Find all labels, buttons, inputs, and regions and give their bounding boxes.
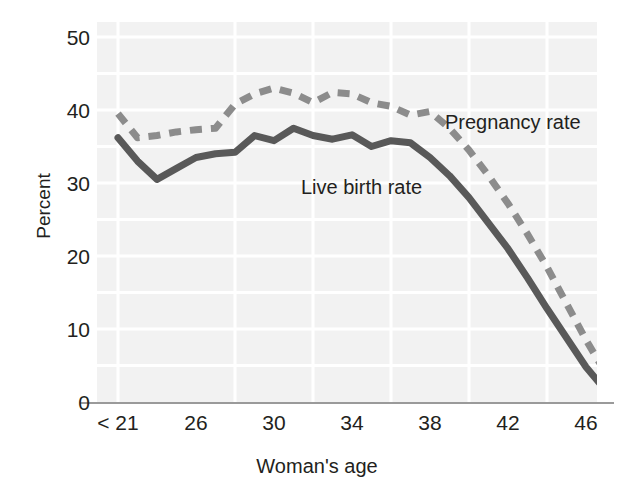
y-tick-label: 0	[44, 392, 90, 413]
x-tick-label: < 21	[97, 412, 138, 433]
series-line-pregnancy-rate	[118, 88, 597, 393]
x-axis-line	[80, 402, 614, 404]
vertical-gridlines	[118, 22, 597, 402]
chart-container: Pregnancy rate Live birth rate 504030201…	[0, 0, 634, 500]
x-axis-title: Woman's age	[0, 455, 634, 478]
y-tick-label: 50	[44, 27, 90, 48]
x-tick-label: 30	[262, 412, 285, 433]
live-birth-rate-label: Live birth rate	[301, 177, 422, 197]
plot-svg	[97, 22, 597, 402]
x-tick-label: 38	[418, 412, 441, 433]
y-tick-label: 40	[44, 100, 90, 121]
y-tick-label: 10	[44, 319, 90, 340]
x-tick-label: 26	[184, 412, 207, 433]
horizontal-gridlines	[97, 37, 597, 366]
series-line-live-birth-rate	[118, 128, 597, 402]
x-axis-tick-labels: < 21263034384246	[97, 412, 617, 446]
y-axis-title: Percent	[33, 146, 55, 266]
pregnancy-rate-label: Pregnancy rate	[445, 112, 581, 132]
x-tick-label: 42	[496, 412, 519, 433]
x-tick-label: 34	[340, 412, 363, 433]
plot-area: Pregnancy rate Live birth rate	[97, 22, 597, 402]
x-tick-label: 46	[574, 412, 597, 433]
